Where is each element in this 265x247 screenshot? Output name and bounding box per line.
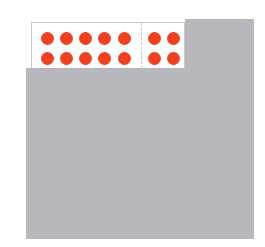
counter-dot bbox=[41, 52, 54, 65]
counter-dot bbox=[98, 52, 111, 65]
counter-dot bbox=[60, 32, 73, 45]
counter-dot bbox=[79, 32, 92, 45]
counter-dot bbox=[41, 32, 54, 45]
counter-dot bbox=[167, 32, 180, 45]
gray-block-tab bbox=[185, 19, 254, 69]
counter-dot bbox=[118, 52, 131, 65]
counter-dot bbox=[60, 52, 73, 65]
gray-block-main bbox=[26, 68, 254, 239]
ten-frame bbox=[31, 22, 185, 68]
counter-dot bbox=[148, 52, 161, 65]
counter-dot bbox=[118, 32, 131, 45]
counter-dot bbox=[79, 52, 92, 65]
frame-divider bbox=[141, 23, 142, 69]
counter-dot bbox=[167, 52, 180, 65]
counter-dot bbox=[148, 32, 161, 45]
counter-dot bbox=[98, 32, 111, 45]
